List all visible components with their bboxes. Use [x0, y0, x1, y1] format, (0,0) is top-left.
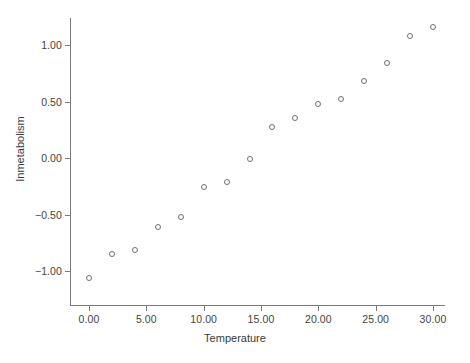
data-point	[384, 60, 390, 66]
x-axis-title: Temperature	[0, 332, 470, 344]
data-point	[338, 96, 344, 102]
y-axis-title: Inmetabolism	[14, 94, 26, 204]
data-points-layer	[0, 0, 470, 363]
data-point	[315, 101, 321, 107]
y-axis-title-container: Inmetabolism	[10, 0, 30, 363]
data-point	[224, 179, 230, 185]
data-point	[178, 214, 184, 220]
data-point	[269, 124, 275, 130]
data-point	[430, 24, 436, 30]
data-point	[201, 184, 207, 190]
data-point	[155, 224, 161, 230]
data-point	[407, 33, 413, 39]
scatter-plot-figure: 1.000.500.00−0.50−1.000.005.0010.0015.00…	[0, 0, 470, 363]
data-point	[109, 251, 115, 257]
data-point	[247, 156, 253, 162]
data-point	[86, 275, 92, 281]
data-point	[361, 78, 367, 84]
data-point	[292, 115, 298, 121]
data-point	[132, 247, 138, 253]
